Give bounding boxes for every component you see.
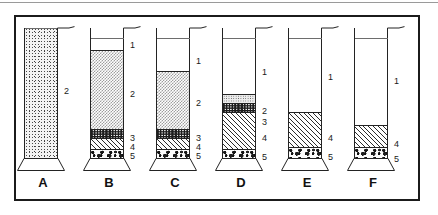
callout-e-4: 4 xyxy=(328,134,333,143)
cylinder-body xyxy=(156,28,190,159)
layer-3 xyxy=(223,103,255,112)
layer-4 xyxy=(157,138,189,148)
cylinder-spout-icon xyxy=(188,26,208,38)
cylinder-caption-f: F xyxy=(350,175,396,190)
cylinder-row: A2B12345C12345D12345E145F145 xyxy=(14,15,420,201)
cylinder-neck-line xyxy=(223,38,256,39)
callout-f-5: 5 xyxy=(394,155,399,164)
callout-c-1: 1 xyxy=(196,57,201,66)
callout-e-5: 5 xyxy=(328,153,333,162)
cylinder-caption-c: C xyxy=(152,175,198,190)
cylinder-body xyxy=(354,28,388,159)
layer-2 xyxy=(25,28,57,159)
callout-b-2: 2 xyxy=(130,90,135,99)
cylinder-foot xyxy=(16,158,66,172)
cylinder-b: B12345 xyxy=(86,15,152,201)
cylinder-foot xyxy=(214,158,264,172)
callout-d-1: 1 xyxy=(262,68,267,77)
callout-d-3: 3 xyxy=(262,118,267,127)
callout-a-2: 2 xyxy=(64,87,69,96)
cylinder-neck-line xyxy=(157,38,190,39)
layer-3 xyxy=(157,129,189,138)
layer-1 xyxy=(91,28,123,50)
layer-4 xyxy=(91,138,123,148)
cylinder-e: E145 xyxy=(284,15,350,201)
cylinder-f: F145 xyxy=(350,15,416,201)
callout-f-1: 1 xyxy=(394,77,399,86)
cylinder-body xyxy=(288,28,322,159)
cylinder-spout-icon xyxy=(254,26,274,38)
cylinder-spout-icon xyxy=(56,26,76,38)
layer-1 xyxy=(289,28,321,112)
callout-b-1: 1 xyxy=(130,41,135,50)
layer-1 xyxy=(355,28,387,125)
cylinder-d: D12345 xyxy=(218,15,284,201)
callout-c-2: 2 xyxy=(196,99,201,108)
figure-root: A2B12345C12345D12345E145F145 xyxy=(0,0,438,215)
cylinder-foot xyxy=(280,158,330,172)
callout-d-4: 4 xyxy=(262,134,267,143)
cylinder-foot xyxy=(148,158,198,172)
layer-4 xyxy=(289,112,321,147)
cylinder-body xyxy=(222,28,256,159)
cylinder-caption-b: B xyxy=(86,175,132,190)
cylinder-neck-line xyxy=(355,38,388,39)
layer-1 xyxy=(157,28,189,71)
cylinder-a: A2 xyxy=(20,15,86,201)
cylinder-c: C12345 xyxy=(152,15,218,201)
callout-f-4: 4 xyxy=(394,140,399,149)
cylinder-body xyxy=(24,28,58,159)
cylinder-spout-icon xyxy=(386,26,406,38)
cylinder-caption-e: E xyxy=(284,175,330,190)
callout-b-5: 5 xyxy=(130,152,135,161)
cylinder-spout-icon xyxy=(320,26,340,38)
callout-d-2: 2 xyxy=(262,107,267,116)
layer-2 xyxy=(223,94,255,103)
layer-4 xyxy=(355,125,387,147)
cylinder-caption-a: A xyxy=(20,175,66,190)
cylinder-foot xyxy=(82,158,132,172)
cylinder-neck-line xyxy=(289,38,322,39)
cylinder-caption-d: D xyxy=(218,175,264,190)
callout-d-5: 5 xyxy=(262,153,267,162)
callout-c-5: 5 xyxy=(196,152,201,161)
cylinder-foot xyxy=(346,158,396,172)
layer-2 xyxy=(157,71,189,129)
scan-top-rule xyxy=(0,2,438,3)
cylinder-spout-icon xyxy=(122,26,142,38)
layer-4 xyxy=(223,112,255,149)
layer-2 xyxy=(91,50,123,129)
cylinder-neck-line xyxy=(91,38,124,39)
cylinder-neck-line xyxy=(25,28,58,29)
callout-e-1: 1 xyxy=(328,73,333,82)
cylinder-body xyxy=(90,28,124,159)
layer-3 xyxy=(91,129,123,138)
